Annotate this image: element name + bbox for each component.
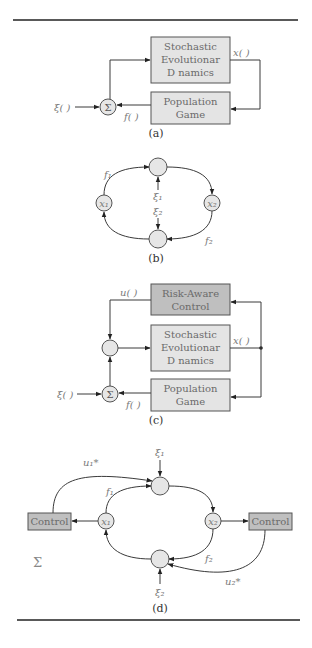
flow-f1-label: f₁ xyxy=(103,169,112,180)
node-bottom xyxy=(149,230,167,248)
caption-d: (d) xyxy=(152,602,168,615)
panel-d: Control Control x₁ x₂ f₁ f₂ u₁* u₂* ξ₁ ξ… xyxy=(28,447,292,615)
noise-xi2-label: ξ₂ xyxy=(153,206,163,217)
sum-icon: Σ xyxy=(106,389,113,400)
input-xi-label: ξ( ) xyxy=(57,389,74,400)
noise-xi1-label: ξ₁ xyxy=(155,447,165,458)
box-control-line2: Control xyxy=(171,301,209,312)
sum-icon: Σ xyxy=(104,102,111,113)
payoff-f-label: f( ) xyxy=(125,399,141,410)
caption-c: (c) xyxy=(149,414,164,427)
box-game-line1: Population xyxy=(163,96,218,107)
node-top xyxy=(151,477,169,495)
flow-f2-label: f₂ xyxy=(204,235,213,246)
figure-canvas: Stochastic Evolutionar D namics Populati… xyxy=(0,0,312,648)
node-x1-label: x₁ xyxy=(99,198,109,209)
box-dynamics-line3: D namics xyxy=(167,67,214,78)
noise-xi2-label: ξ₂ xyxy=(155,587,165,598)
node-x2-label: x₂ xyxy=(208,516,218,527)
panel-a: Stochastic Evolutionar D namics Populati… xyxy=(54,37,260,140)
control-right-label: Control xyxy=(251,516,289,527)
node-x1-label: x₁ xyxy=(101,516,111,527)
flow-f2-label: f₂ xyxy=(204,553,213,564)
box-game-line2: Game xyxy=(176,109,205,120)
box-dynamics-line1: Stochastic xyxy=(164,41,217,52)
control-u-label: u( ) xyxy=(120,287,138,298)
sigma-symbol: Σ xyxy=(33,555,42,570)
node-bottom xyxy=(151,550,169,568)
state-x-label: x( ) xyxy=(233,47,250,58)
state-x-label: x( ) xyxy=(233,335,250,346)
panel-b: x₁ x₂ f₁ f₂ ξ₁ ξ₂ (b) xyxy=(96,158,220,265)
control-left-label: Control xyxy=(30,516,68,527)
box-game-line1: Population xyxy=(163,383,218,394)
box-game-line2: Game xyxy=(176,396,205,407)
box-dynamics-line1: Stochastic xyxy=(164,329,217,340)
flow-f1-label: f₁ xyxy=(105,486,114,497)
box-control-line1: Risk-Aware xyxy=(162,288,219,299)
box-dynamics-line2: Evolutionar xyxy=(161,342,220,353)
box-dynamics-line3: D namics xyxy=(167,355,214,366)
payoff-f-label: f( ) xyxy=(123,111,139,122)
node-x2-label: x₂ xyxy=(207,198,217,209)
panel-c: Risk-Aware Control Stochastic Evolutiona… xyxy=(57,284,263,427)
caption-b: (b) xyxy=(148,252,164,265)
control-u1-label: u₁* xyxy=(83,457,98,468)
caption-a: (a) xyxy=(148,127,163,140)
noise-xi1-label: ξ₁ xyxy=(153,191,163,202)
control-u2-label: u₂* xyxy=(225,576,240,587)
plus-junction xyxy=(102,340,118,356)
node-top xyxy=(149,158,167,176)
input-xi-label: ξ( ) xyxy=(54,102,71,113)
box-dynamics-line2: Evolutionar xyxy=(161,54,220,65)
